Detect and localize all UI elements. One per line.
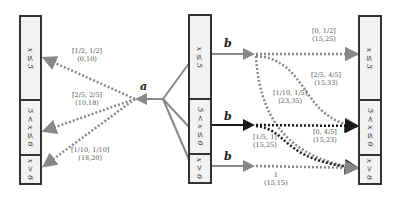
middle-cell-5-lt-x-le-6: 5 < x ≤ 6: [188, 98, 212, 155]
left-cell-x-le-5: x ≤ 5: [19, 15, 42, 101]
middle-cell-x-gt-6: x > 6: [188, 153, 212, 184]
edge-label-left-1: [1/2, 1/2](0,10): [72, 48, 102, 64]
edge-label-left-3: [1/10, 1/10](18,20): [71, 147, 109, 163]
action-a-label: a: [140, 80, 147, 93]
action-b-label-3: b: [224, 150, 232, 163]
right-cell-x-le-5: x ≤ 5: [358, 15, 382, 101]
right-cell-x-gt-6: x > 6: [358, 154, 382, 185]
edge-label-right-3: [1/10, 1/5](23,35): [273, 90, 307, 106]
edge-label-right-5: [1/5, 1](15,25): [253, 134, 277, 150]
right-cell-5-lt-x-le-6: 5 < x ≤ 6: [358, 99, 382, 156]
middle-cell-x-le-5: x ≤ 5: [188, 14, 212, 100]
action-b-label-2: b: [224, 110, 232, 123]
left-cell-x-gt-6: x > 6: [19, 154, 42, 185]
edge-label-right-6: 1(15,15): [264, 172, 288, 188]
edge-label-right-4: [0, 4/5](15,23): [313, 129, 337, 145]
action-b-label-1: b: [224, 37, 232, 50]
left-cell-5-lt-x-le-6: 5 < x ≤ 6: [19, 99, 42, 156]
edge-label-left-2: [2/5, 2/5](10,18): [72, 92, 102, 108]
edge-label-right-2: [2/5, 4/5](15,33): [311, 72, 341, 88]
edge-label-right-1: [0, 1/2](15,25): [312, 28, 336, 44]
